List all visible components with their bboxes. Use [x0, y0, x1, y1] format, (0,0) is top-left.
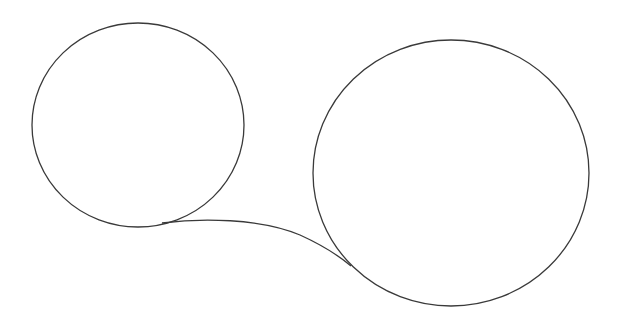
connector-curve — [162, 220, 351, 266]
large-circle — [313, 40, 589, 306]
diagram-canvas — [0, 0, 622, 329]
small-circle — [32, 23, 244, 227]
